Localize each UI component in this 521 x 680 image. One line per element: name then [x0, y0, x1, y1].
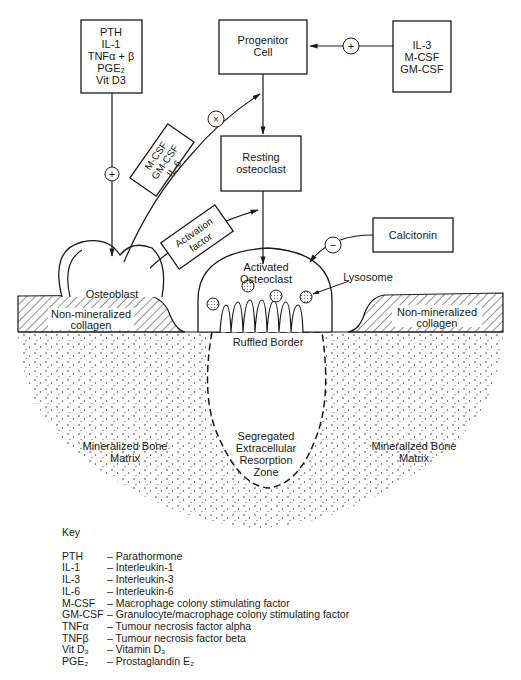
times-glyph: ×	[213, 114, 219, 125]
lysosome-1	[207, 298, 219, 310]
key-row: IL-3– Interleukin-3	[62, 574, 349, 586]
resting-label-1: Resting	[242, 151, 279, 163]
key-row: IL-6– Interleukin-6	[62, 586, 349, 598]
key-row: IL-1– Interleukin-1	[62, 562, 349, 574]
matrix-left-label-1: Mineralized Bone	[83, 440, 168, 452]
zone-label-4: Zone	[253, 466, 278, 478]
stim-pge2: PGE₂	[97, 62, 125, 74]
plus-glyph-left: +	[109, 168, 115, 180]
matrix-right-label-2: Matrix	[399, 452, 429, 464]
lysosome-4	[300, 291, 312, 303]
gf-mcsf: M-CSF	[405, 51, 440, 63]
progenitor-label-1: Progenitor	[238, 34, 289, 46]
resting-label-2: osteoclast	[236, 163, 286, 175]
key-row: Vit D₃– Vitamin D₃	[62, 644, 349, 656]
key-row: PGE₂– Prostaglandin E₂	[62, 656, 349, 668]
stim-vitd3: Vit D3	[96, 74, 126, 86]
calcitonin-label: Calcitonin	[389, 229, 437, 241]
calcitonin-inhibition-arrow	[310, 235, 373, 262]
stim-il1: IL-1	[102, 38, 121, 50]
collagen-right-label-2: collagen	[417, 317, 458, 329]
key-row: PTH– Parathormone	[62, 551, 349, 563]
activated-label-1: Activated	[243, 261, 288, 273]
activated-label-2: Osteoclast	[240, 273, 292, 285]
csf-tag: M-CSF GM-CSF IL-6	[130, 124, 197, 199]
key-title: Key	[62, 527, 349, 539]
matrix-left-label-2: Matrix	[110, 452, 140, 464]
matrix-right-label-1: Mineralized Bone	[372, 440, 457, 452]
osteoblast-label: Osteoblast	[86, 288, 139, 300]
lysosome-label: Lysosome	[343, 271, 393, 283]
gf-il3: IL-3	[413, 39, 432, 51]
lysosome-3	[270, 290, 282, 302]
ruffled-border-label: Ruffled Border	[233, 336, 304, 348]
collagen-left-label-2: collagen	[71, 319, 112, 331]
stim-tnf: TNFα + β	[88, 50, 135, 62]
stim-pth: PTH	[100, 26, 122, 38]
zone-label-2: Extracellular	[236, 442, 297, 454]
key-legend: Key PTH– Parathormone IL-1– Interleukin-…	[62, 527, 349, 668]
key-row: TNFα– Tumour necrosis factor alpha	[62, 621, 349, 633]
minus-glyph: −	[330, 239, 336, 251]
zone-label-3: Resorption	[239, 454, 292, 466]
key-row: TNFβ– Tumour necrosis factor beta	[62, 633, 349, 645]
plus-glyph-right: +	[348, 40, 354, 52]
progenitor-label-2: Cell	[254, 46, 273, 58]
zone-label-1: Segregated	[238, 430, 295, 442]
gf-gmcsf: GM-CSF	[400, 63, 444, 75]
